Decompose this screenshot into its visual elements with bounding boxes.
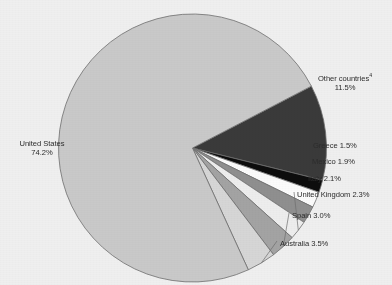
slice-label-united-states-name: United States — [20, 139, 65, 148]
slice-label-other-countries: Other countries4 11.5% — [298, 74, 392, 93]
slice-label-other-countries-value: 11.5% — [335, 83, 356, 92]
slice-label-spain: Spain 3.0% — [292, 211, 330, 220]
footnote-marker: 4 — [369, 72, 372, 78]
slice-label-united-kingdom: United Kingdom 2.3% — [297, 190, 370, 199]
slice-label-greece: Greece 1.5% — [313, 141, 357, 150]
slice-label-mexico: Mexico 1.9% — [312, 157, 355, 166]
slice-label-united-states: United States 74.2% — [4, 139, 80, 158]
slice-label-italy: Italy 2.1% — [308, 174, 341, 183]
slice-label-other-countries-name: Other countries — [318, 74, 369, 83]
chart-canvas: United States 74.2% Other countries4 11.… — [0, 0, 392, 285]
slice-label-australia: Australia 3.5% — [280, 239, 328, 248]
slice-label-united-states-value: 74.2% — [31, 148, 52, 157]
